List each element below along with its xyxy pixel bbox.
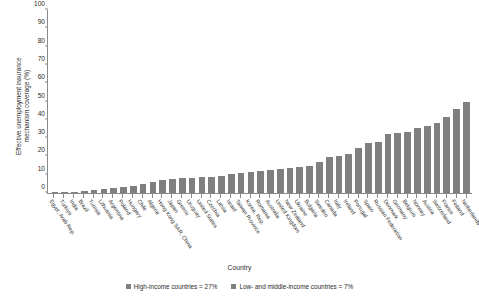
bar-slot [217, 10, 227, 193]
bar-slot [128, 10, 138, 193]
y-tick-label: 0 [41, 183, 45, 190]
bar [345, 154, 352, 193]
legend-label: Low- and middle-income countries = 7% [239, 283, 353, 290]
bar-slot [177, 10, 187, 193]
bar-slot [364, 10, 374, 193]
bar [277, 169, 284, 193]
y-tick-mark [45, 173, 48, 174]
x-label-slot: United States [196, 198, 206, 260]
x-label-slot: Latvia [216, 198, 226, 260]
x-label-slot: Egypt, Arab Rep. [49, 198, 59, 260]
x-label-slot: Sweden [314, 198, 324, 260]
x-label-slot: Italy [334, 198, 344, 260]
x-label-slot: Greece [177, 198, 187, 260]
bar-slot [207, 10, 217, 193]
bar [404, 132, 411, 193]
bar [140, 184, 147, 193]
bar [150, 182, 157, 193]
bar [179, 178, 186, 193]
y-tick-mark [45, 100, 48, 101]
bar [101, 189, 108, 193]
y-axis-title: Effective unemployment insurancemechanis… [15, 11, 31, 201]
bar [385, 134, 392, 193]
x-label-slot: Russian Federation [373, 198, 383, 260]
bar-slot [461, 10, 471, 193]
bar [81, 191, 88, 193]
x-label-slot: Algeria [147, 198, 157, 260]
bar-slot [452, 10, 462, 193]
bar [110, 188, 117, 193]
y-tick-label: 100 [34, 0, 45, 7]
plot-area: 0102030405060708090100 [47, 10, 472, 194]
legend-item: Low- and middle-income countries = 7% [231, 283, 353, 290]
bar [130, 186, 137, 193]
bar-slot [236, 10, 246, 193]
y-tick-mark [45, 155, 48, 156]
bar-slot [187, 10, 197, 193]
x-label-slot: Bulgaria [304, 198, 314, 260]
y-tick-mark [45, 137, 48, 138]
bar [52, 192, 59, 193]
x-label-slot: Canada [324, 198, 334, 260]
bar [394, 133, 401, 193]
bar [199, 177, 206, 193]
x-label-slot: Hong Kong SAR, China [157, 198, 167, 260]
bar [248, 172, 255, 193]
bar-slot [99, 10, 109, 193]
x-axis-labels: Egypt, Arab Rep.TürkiyeIndiaBrazilTunisi… [48, 198, 472, 260]
legend-swatch-icon [231, 284, 236, 289]
bar-slot [354, 10, 364, 193]
x-label-slot: Poland [118, 198, 128, 260]
bar [218, 176, 225, 193]
bar [267, 170, 274, 193]
bar [189, 178, 196, 193]
bar [306, 166, 313, 193]
legend-item: High-income countries = 27% [126, 283, 218, 290]
x-label-slot: Ukraine [294, 198, 304, 260]
bar-slot [70, 10, 80, 193]
x-label-slot: Taiwan Province [235, 198, 245, 260]
y-tick-mark [45, 82, 48, 83]
x-tick-label: Italy [333, 198, 344, 210]
x-label-slot: Brazil [78, 198, 88, 260]
y-tick-label: 80 [38, 36, 45, 43]
x-label-slot: Israel [226, 198, 236, 260]
bar-slot [138, 10, 148, 193]
bar-slot [158, 10, 168, 193]
bar-slot [109, 10, 119, 193]
bar-slot [373, 10, 383, 193]
bar [169, 179, 176, 193]
y-tick-label: 20 [38, 146, 45, 153]
x-label-slot: Romania [255, 198, 265, 260]
x-label-slot: India [69, 198, 79, 260]
bar-slot [89, 10, 99, 193]
bar [296, 167, 303, 193]
bar [287, 168, 294, 193]
bar-slot [266, 10, 276, 193]
bar-slot [442, 10, 452, 193]
bar-slot [246, 10, 256, 193]
bar [355, 148, 362, 193]
y-tick-mark [45, 27, 48, 28]
x-label-slot: United Kingdom [275, 198, 285, 260]
bar [71, 192, 78, 193]
bar [159, 180, 166, 193]
bar-slot [275, 10, 285, 193]
x-label-slot: Uruguay [186, 198, 196, 260]
chart-legend: High-income countries = 27%Low- and midd… [0, 283, 479, 290]
y-axis-title-line1: Effective unemployment insurance [15, 57, 22, 155]
bar [228, 174, 235, 193]
y-tick-label: 10 [38, 164, 45, 171]
bar [61, 192, 68, 193]
bar-slot [324, 10, 334, 193]
bar-slot [393, 10, 403, 193]
bar-slot [383, 10, 393, 193]
bar-slot [197, 10, 207, 193]
bar-series [49, 10, 472, 193]
bar-slot [295, 10, 305, 193]
y-tick-mark [45, 118, 48, 119]
x-label-slot: Netherlands [461, 198, 471, 260]
bar [208, 177, 215, 193]
x-label-slot: New Zealand [285, 198, 295, 260]
x-label-slot: Belgium [402, 198, 412, 260]
